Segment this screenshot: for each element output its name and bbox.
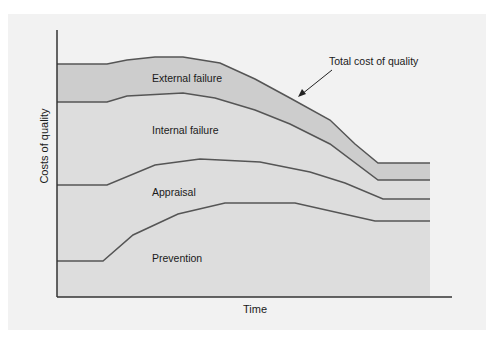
label-external-failure: External failure bbox=[152, 72, 222, 84]
label-internal-failure: Internal failure bbox=[152, 124, 219, 136]
cost-of-quality-chart bbox=[0, 0, 494, 339]
y-axis-label: Costs of quality bbox=[38, 96, 50, 196]
arrow-head-icon bbox=[298, 89, 306, 97]
annotation-arrow-line bbox=[302, 70, 332, 94]
label-prevention: Prevention bbox=[152, 252, 202, 264]
x-axis-label: Time bbox=[243, 303, 267, 315]
annotation-total-cost: Total cost of quality bbox=[329, 55, 418, 67]
label-appraisal: Appraisal bbox=[152, 186, 196, 198]
